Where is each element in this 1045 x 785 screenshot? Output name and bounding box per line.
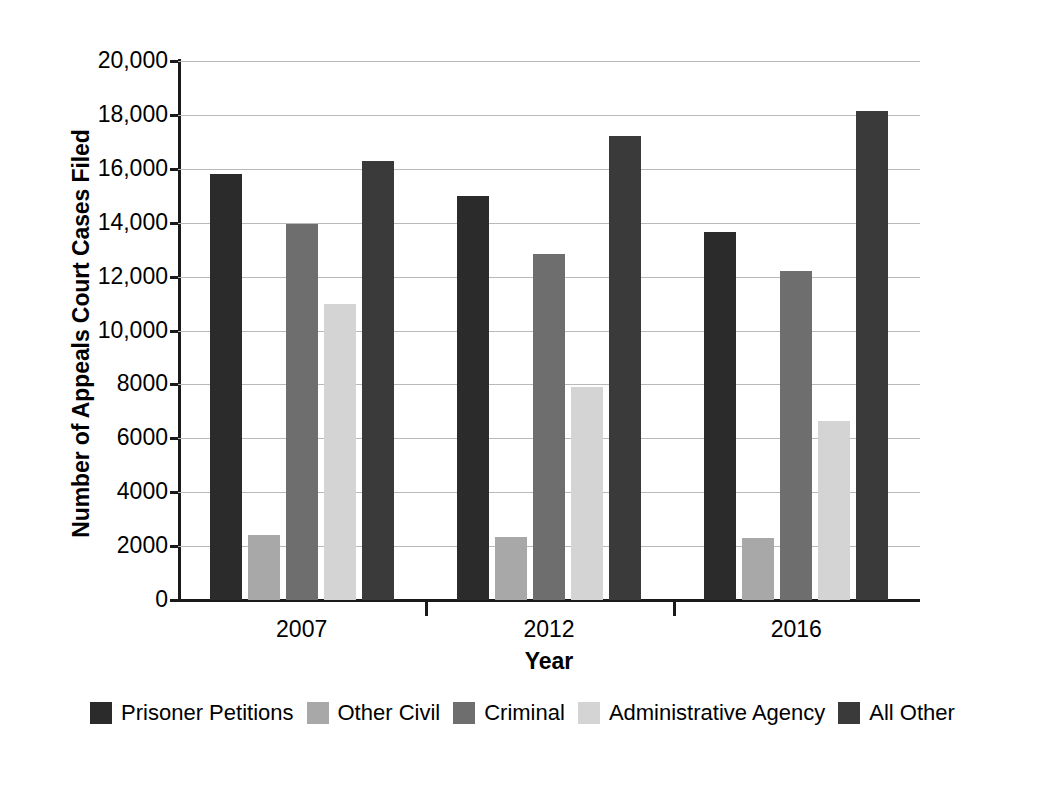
legend-label: Criminal [484, 700, 565, 726]
bar[interactable] [704, 232, 736, 600]
bar[interactable] [248, 535, 280, 600]
legend-label: Administrative Agency [609, 700, 825, 726]
plot-area [178, 61, 920, 600]
bar[interactable] [609, 136, 641, 600]
legend-item[interactable]: All Other [838, 700, 955, 726]
bar[interactable] [324, 304, 356, 600]
legend-item[interactable]: Other Civil [307, 700, 441, 726]
legend-swatch-icon [90, 702, 112, 724]
bar[interactable] [780, 271, 812, 600]
y-axis-tick-marks [0, 61, 181, 600]
legend-swatch-icon [453, 702, 475, 724]
legend-swatch-icon [838, 702, 860, 724]
x-axis-tick-label-2016: 2016 [716, 616, 876, 643]
legend-label: Other Civil [338, 700, 441, 726]
bar-chart-figure: Number of Appeals Court Cases Filed 0200… [0, 0, 1045, 785]
x-axis-tick-mark [673, 602, 676, 616]
bar-group-2012 [457, 61, 641, 600]
bar[interactable] [362, 161, 394, 600]
legend-item[interactable]: Prisoner Petitions [90, 700, 293, 726]
bar[interactable] [571, 387, 603, 600]
bar[interactable] [533, 254, 565, 600]
legend-label: Prisoner Petitions [121, 700, 293, 726]
x-axis-tick-label-2012: 2012 [469, 616, 629, 643]
x-axis-title: Year [178, 648, 920, 675]
bar[interactable] [495, 537, 527, 600]
bar[interactable] [286, 224, 318, 600]
bar[interactable] [818, 421, 850, 600]
bar-group-2007 [210, 61, 394, 600]
bar[interactable] [210, 174, 242, 600]
x-axis-tick-label-2007: 2007 [222, 616, 382, 643]
x-axis-tick-mark [425, 602, 428, 616]
legend-swatch-icon [578, 702, 600, 724]
bar[interactable] [856, 111, 888, 600]
legend-item[interactable]: Administrative Agency [578, 700, 825, 726]
bars-layer [178, 61, 920, 600]
bar[interactable] [457, 196, 489, 600]
x-axis-tick-labels: 200720122016 [178, 616, 920, 650]
bar-group-2016 [704, 61, 888, 600]
legend-label: All Other [869, 700, 955, 726]
legend-item[interactable]: Criminal [453, 700, 565, 726]
bar[interactable] [742, 538, 774, 600]
chart-legend: Prisoner PetitionsOther CivilCriminalAdm… [0, 700, 1045, 726]
legend-swatch-icon [307, 702, 329, 724]
